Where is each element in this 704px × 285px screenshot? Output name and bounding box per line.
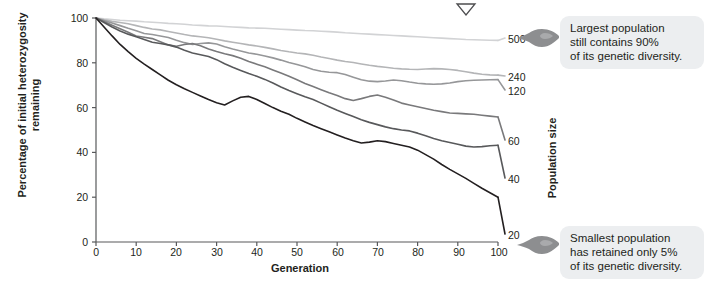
pointing-hand-icon <box>515 25 561 51</box>
y-tick-100: 100 <box>62 12 88 24</box>
x-tick-20: 20 <box>161 246 191 258</box>
callout-largest-line-2: still contains 90% <box>570 35 694 49</box>
series-label-60: 60 <box>508 135 520 147</box>
x-tick-50: 50 <box>282 246 312 258</box>
series-label-40: 40 <box>508 173 520 185</box>
x-tick-40: 40 <box>242 246 272 258</box>
x-tick-100: 100 <box>484 246 514 258</box>
x-tick-80: 80 <box>403 246 433 258</box>
y-tick-80: 80 <box>62 57 88 69</box>
x-tick-10: 10 <box>121 246 151 258</box>
callout-largest-population: Largest population still contains 90% of… <box>560 16 704 69</box>
callout-largest-line-1: Largest population <box>570 21 694 35</box>
x-tick-30: 30 <box>202 246 232 258</box>
x-tick-90: 90 <box>444 246 474 258</box>
y-tick-20: 20 <box>62 191 88 203</box>
x-tick-0: 0 <box>81 246 111 258</box>
callout-smallest-line-1: Smallest population <box>570 231 694 245</box>
y-tick-60: 60 <box>62 102 88 114</box>
callout-largest-line-3: of its genetic diversity. <box>570 49 694 63</box>
series-label-120: 120 <box>508 85 526 97</box>
callout-smallest-line-3: of its genetic diversity. <box>570 259 694 273</box>
population-size-axis-title: Population size <box>546 103 558 213</box>
y-tick-40: 40 <box>62 146 88 158</box>
x-tick-60: 60 <box>323 246 353 258</box>
callout-smallest-population: Smallest population has retained only 5%… <box>560 226 704 279</box>
series-label-240: 240 <box>508 71 526 83</box>
callout-smallest-line-2: has retained only 5% <box>570 245 694 259</box>
y-axis-title: Percentage of initial heterozygosity rem… <box>16 10 42 200</box>
pointing-hand-icon <box>515 232 561 258</box>
x-tick-70: 70 <box>363 246 393 258</box>
x-axis-title: Generation <box>230 262 370 274</box>
